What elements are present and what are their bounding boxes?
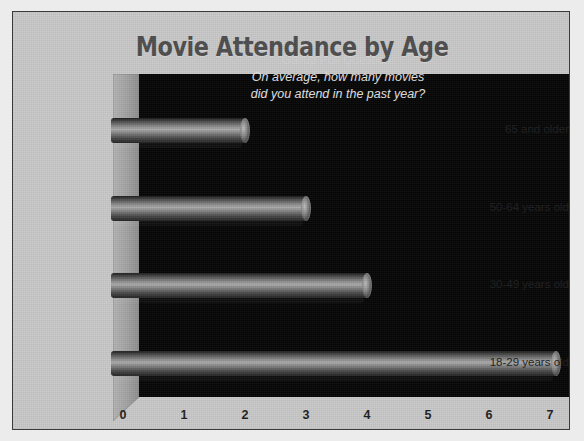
annotation-question-line-1: On average, how many movies [223,69,453,86]
chart-title: Movie Attendance by Age [52,32,532,62]
y-category-label-50-64: 50-64 years old [473,201,569,213]
x-tick-label-5: 5 [416,408,440,422]
x-tick-label-4: 4 [355,408,379,422]
x-tick-label-6: 6 [477,408,501,422]
x-tick-label-0: 0 [111,408,135,422]
x-axis: 0 1 2 3 4 5 6 7 [13,408,570,430]
scanned-page-background: Movie Attendance by Age Gallup Poll Ques… [0,0,584,441]
bar-30-49-years-old [111,273,367,298]
x-tick-label-2: 2 [233,408,257,422]
y-category-label-30-49: 30-49 years old [473,278,569,290]
y-category-label-18-29: 18-29 years old [473,356,569,368]
bar-65-and-older [111,118,245,143]
bar-body [111,118,245,143]
annotation-question-line-2: did you attend in the past year? [223,86,453,103]
bar-50-64-years-old [111,196,306,221]
x-tick-label-7: 7 [538,408,562,422]
bar-body [111,273,367,298]
y-category-label-65-and-older: 65 and older [473,123,569,135]
x-tick-label-3: 3 [294,408,318,422]
bar-body [111,196,306,221]
x-tick-label-1: 1 [172,408,196,422]
chart-frame: Movie Attendance by Age Gallup Poll Ques… [12,11,570,430]
